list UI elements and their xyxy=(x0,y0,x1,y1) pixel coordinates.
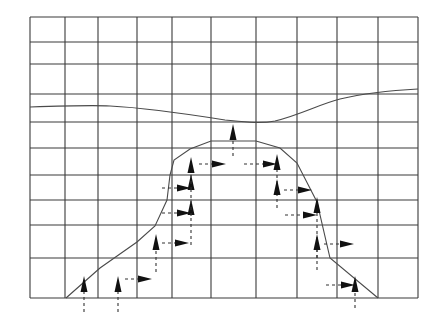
right-arrow-icon xyxy=(324,241,354,248)
right-arrow-icon xyxy=(162,210,191,217)
flow-diagram xyxy=(0,0,440,323)
up-arrow-icon xyxy=(115,276,122,312)
right-arrow-icon xyxy=(284,187,312,194)
grid xyxy=(30,17,418,298)
up-arrow-icon xyxy=(314,234,321,270)
right-arrow-icon xyxy=(125,276,152,283)
right-arrow-icon xyxy=(244,161,277,168)
right-arrow-icon xyxy=(162,240,189,247)
up-arrow-icon xyxy=(81,276,88,312)
up-arrow-icon xyxy=(274,179,281,195)
right-arrow-icon xyxy=(162,185,191,192)
up-arrow-icon xyxy=(188,174,195,216)
up-arrow-icon xyxy=(188,199,195,245)
arrow-group xyxy=(81,124,359,312)
right-arrow-icon xyxy=(199,161,226,168)
up-arrow-icon xyxy=(230,124,237,156)
right-arrow-icon xyxy=(326,282,355,289)
up-arrow-icon xyxy=(153,234,160,272)
right-arrow-icon xyxy=(285,212,317,219)
